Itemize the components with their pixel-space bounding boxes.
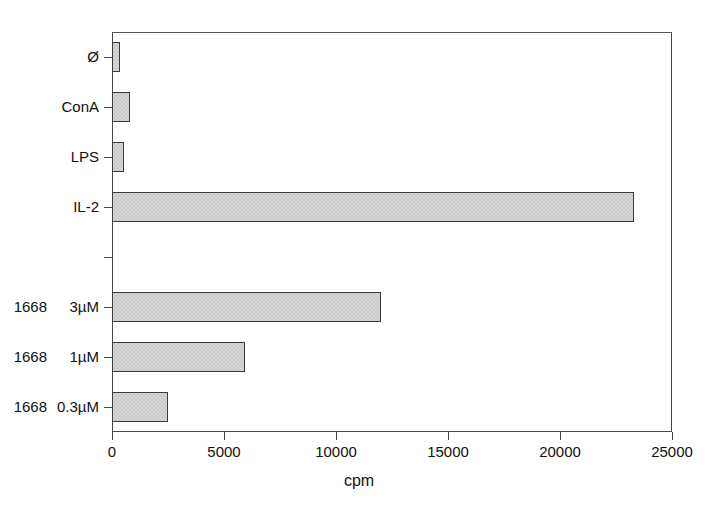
bar-row: [112, 292, 672, 322]
y-axis-label-name: LPS: [71, 149, 99, 164]
bar: [112, 42, 120, 72]
y-axis-label: 16680.3µM: [14, 399, 99, 414]
x-axis-title: cpm: [0, 472, 718, 490]
y-axis-label-name: 1668: [14, 299, 47, 314]
y-axis-tick: [104, 207, 112, 208]
x-axis-tick: [560, 432, 561, 440]
bar: [112, 292, 381, 322]
y-axis-tick: [104, 107, 112, 108]
bar-row: [112, 42, 672, 72]
x-axis-tick: [336, 432, 337, 440]
x-axis-tick-label: 5000: [207, 444, 240, 460]
y-axis-label: LPS: [71, 149, 99, 164]
bar-row: [112, 142, 672, 172]
bar-row: [112, 92, 672, 122]
y-axis-tick: [104, 57, 112, 58]
y-axis-label-dose: 3µM: [47, 299, 99, 314]
y-axis-label-name: 1668: [14, 399, 47, 414]
y-axis-label: ConA: [61, 99, 99, 114]
y-axis-label-name: IL-2: [73, 199, 99, 214]
y-axis-tick: [104, 357, 112, 358]
x-axis-tick: [672, 432, 673, 440]
bar: [112, 392, 168, 422]
y-axis-tick: [104, 157, 112, 158]
y-axis-label: IL-2: [73, 199, 99, 214]
y-axis-tick: [104, 407, 112, 408]
y-axis-tick: [104, 307, 112, 308]
bar-row: [112, 242, 672, 272]
y-axis-label-name: ConA: [61, 99, 99, 114]
bar: [112, 142, 124, 172]
y-axis-label-dose: 0.3µM: [47, 399, 99, 414]
y-axis-tick-layer: ØConALPSIL-216683µM16681µM16680.3µM: [0, 32, 112, 432]
x-axis-tick-label: 25000: [651, 444, 693, 460]
y-axis-label: Ø: [87, 49, 99, 64]
y-axis-label: 16683µM: [14, 299, 99, 314]
x-axis-tick-label: 0: [108, 444, 116, 460]
x-axis-tick-label: 10000: [315, 444, 357, 460]
bars-layer: [112, 32, 672, 432]
y-axis-label-name: 1668: [14, 349, 47, 364]
y-axis-tick: [104, 257, 112, 258]
x-axis-tick-label: 15000: [427, 444, 469, 460]
y-axis-label: 16681µM: [14, 349, 99, 364]
bar: [112, 342, 245, 372]
bar-row: [112, 342, 672, 372]
bar-chart-figure: ØConALPSIL-216683µM16681µM16680.3µM 0500…: [0, 0, 718, 524]
x-axis-tick: [448, 432, 449, 440]
x-axis-tick: [112, 432, 113, 440]
x-axis-tick: [224, 432, 225, 440]
bar: [112, 92, 130, 122]
y-axis-label-name: Ø: [87, 49, 99, 64]
bar-row: [112, 192, 672, 222]
x-axis-tick-label: 20000: [539, 444, 581, 460]
y-axis-label-dose: 1µM: [47, 349, 99, 364]
bar: [112, 192, 634, 222]
bar-row: [112, 392, 672, 422]
